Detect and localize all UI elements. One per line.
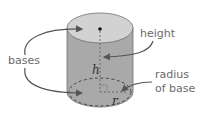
- bases-label: bases: [8, 54, 40, 67]
- height-label: height: [140, 27, 176, 40]
- height-variable: h: [92, 63, 100, 77]
- top-center-point: [98, 27, 102, 31]
- cylinder-diagram: h r bases height radius of base: [0, 0, 200, 122]
- radius-label-line1: radius: [155, 68, 189, 81]
- radius-label-line2: of base: [155, 82, 196, 95]
